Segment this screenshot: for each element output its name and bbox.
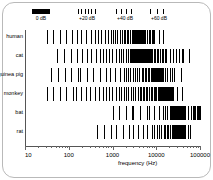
threshold-line (182, 87, 183, 101)
threshold-line (95, 30, 96, 44)
x-tick-minor (190, 146, 191, 148)
threshold-line (137, 68, 138, 82)
x-tick-label-10000: 10000 (148, 151, 165, 159)
legend-tick (78, 9, 79, 14)
x-tick-major (156, 146, 157, 150)
chart-row-cat: cat (25, 49, 200, 63)
threshold-line (133, 106, 134, 120)
threshold-line (163, 30, 164, 44)
threshold-line (111, 30, 112, 44)
legend-swatch (77, 9, 97, 14)
threshold-line (165, 106, 166, 120)
threshold-line (174, 68, 175, 82)
threshold-line (200, 106, 201, 120)
threshold-line (66, 87, 67, 101)
threshold-line (115, 30, 116, 44)
x-tick-minor (99, 146, 100, 148)
legend-swatch (32, 9, 50, 14)
threshold-line (78, 68, 79, 82)
threshold-line (154, 125, 155, 139)
threshold-line (189, 49, 190, 63)
threshold-line (163, 68, 164, 82)
legend-item--20-db: +20 dB (74, 9, 100, 21)
row-label-rat: rat (17, 128, 23, 135)
threshold-line (76, 87, 77, 101)
row-bars (25, 87, 200, 101)
threshold-line (71, 49, 72, 63)
x-tick-minor (169, 146, 170, 148)
threshold-line (133, 125, 134, 139)
hearing-range-chart-figure: 0 dB+20 dB+40 dB+60 dB humancatguinea pi… (0, 0, 213, 180)
threshold-line (139, 68, 140, 82)
x-tick-minor (193, 146, 194, 148)
chart-row-rat: rat (25, 125, 200, 139)
threshold-line (133, 87, 134, 101)
threshold-line (106, 49, 107, 63)
threshold-line (157, 125, 158, 139)
x-tick-minor (38, 146, 39, 148)
threshold-line (65, 68, 66, 82)
threshold-line (147, 125, 148, 139)
threshold-line (66, 30, 67, 44)
threshold-line (152, 125, 153, 139)
x-tick-label-10: 10 (25, 151, 32, 159)
threshold-line (128, 87, 129, 101)
chart-row-human: human (25, 30, 200, 44)
threshold-line (126, 49, 127, 63)
threshold-line (113, 30, 114, 44)
threshold-line (149, 106, 150, 120)
threshold-line (93, 68, 94, 82)
threshold-line (133, 68, 134, 82)
threshold-line (106, 68, 107, 82)
legend-tick (131, 9, 132, 14)
threshold-line (154, 30, 155, 44)
threshold-line (97, 125, 98, 139)
threshold-line (91, 30, 92, 44)
row-label-monkey: monkey (4, 90, 23, 97)
row-label-cat: cat (16, 52, 23, 59)
threshold-line (116, 87, 117, 101)
threshold-line (181, 68, 182, 82)
chart-row-bat: bat (25, 106, 200, 120)
x-tick-major (69, 146, 70, 150)
legend-label: +60 dB (146, 15, 172, 21)
threshold-line (120, 30, 121, 44)
legend-item-0-db: 0 dB (28, 9, 54, 21)
threshold-line (108, 30, 109, 44)
chart-row-monkey: monkey (25, 87, 200, 101)
legend-label: 0 dB (28, 15, 54, 21)
threshold-line (81, 87, 82, 101)
legend-tick (116, 9, 117, 14)
threshold-line (64, 49, 65, 63)
threshold-line (109, 49, 110, 63)
x-tick-minor (143, 146, 144, 148)
x-tick-minor (183, 146, 184, 148)
threshold-line (117, 30, 118, 44)
legend-tick (126, 9, 127, 14)
legend-tick (163, 9, 164, 14)
legend-label: +20 dB (74, 15, 100, 21)
legend-tick (121, 9, 122, 14)
x-tick-minor (82, 146, 83, 148)
threshold-line (47, 30, 48, 44)
threshold-line (103, 87, 104, 101)
threshold-line (99, 87, 100, 101)
threshold-line (154, 106, 155, 120)
threshold-line (172, 68, 173, 82)
threshold-line (170, 68, 171, 82)
x-tick-minor (106, 146, 107, 148)
threshold-line (126, 87, 127, 101)
threshold-line (165, 68, 166, 82)
x-tick-minor (147, 146, 148, 148)
x-tick-minor (187, 146, 188, 148)
threshold-line (91, 49, 92, 63)
threshold-line (161, 125, 162, 139)
x-tick-label-100: 100 (64, 151, 74, 159)
x-tick-minor (154, 146, 155, 148)
threshold-line (176, 49, 177, 63)
threshold-line (163, 106, 164, 120)
threshold-line (105, 30, 106, 44)
x-tick-minor (65, 146, 66, 148)
legend-swatch (149, 9, 169, 14)
threshold-line (190, 125, 191, 139)
